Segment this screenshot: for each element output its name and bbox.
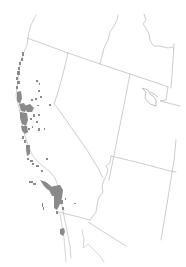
idaho-montana-border [143,14,174,49]
map-canvas [0,0,186,267]
utah-colorado-border [161,140,176,240]
utah-wyoming-border [160,87,180,106]
mexico-border [58,212,90,220]
oregon-california-border [27,38,68,53]
nevada-utah-border [109,74,130,180]
northern-nevada-border [68,53,168,87]
species-range [16,52,76,236]
range-map [0,0,186,267]
great-salt-lake [142,88,156,106]
oregon-idaho-border [100,15,118,64]
california-nevada-border [54,53,103,178]
utah-arizona-border [111,156,176,172]
colorado-river-border [90,156,111,220]
idaho-wyoming-border [171,44,174,88]
arizona-mexico-border [88,222,126,246]
gulf-of-california-coast [82,230,104,262]
